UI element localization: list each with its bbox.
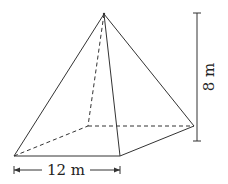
- hidden-base-edge-left: [14, 126, 88, 156]
- lateral-edge-front-left: [14, 14, 104, 156]
- apex-point: [103, 13, 105, 15]
- base-label: 12 m: [47, 161, 85, 179]
- pyramid-diagram: 8 m 12 m: [0, 0, 228, 184]
- base-dimension: 12 m: [14, 161, 120, 179]
- lateral-edge-back-right: [104, 14, 194, 126]
- height-label: 8 m: [200, 63, 218, 92]
- height-dimension: 8 m: [193, 13, 218, 141]
- hidden-lateral-edge: [88, 14, 104, 126]
- base-edge-right: [120, 126, 194, 156]
- lateral-edge-front-right: [104, 14, 120, 156]
